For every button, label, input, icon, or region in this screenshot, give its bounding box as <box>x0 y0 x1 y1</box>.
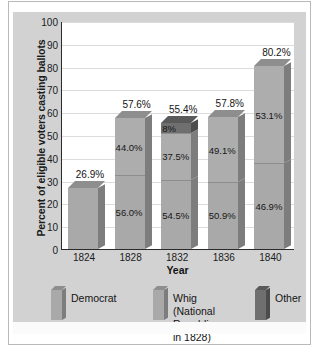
segment-value-label: 37.5% <box>162 151 206 162</box>
y-axis-tick-label: 20 <box>32 199 58 210</box>
bar-slot: 56.0%44.0%57.6%1828 <box>109 22 156 249</box>
y-axis-tick-label: 50 <box>32 131 58 142</box>
chart-panel: Percent of eligible voters casting ballo… <box>13 12 306 334</box>
legend-swatch-other <box>255 290 266 320</box>
y-axis-tick-label: 0 <box>32 245 58 256</box>
legend-label: Whig (National Republican in 1828) <box>173 292 226 344</box>
segment-value-label: 54.5% <box>162 210 206 221</box>
legend-swatch-side <box>62 288 66 320</box>
bar-slot: 46.9%53.1%80.2%1840 <box>248 22 295 249</box>
plot-area: 0102030405060708090100 26.9%182456.0%44.… <box>61 22 294 250</box>
chart-figure: Percent of eligible voters casting ballo… <box>0 0 320 352</box>
x-axis-title: Year <box>61 264 294 276</box>
segment-value-label: 44.0% <box>116 142 160 153</box>
x-axis-tick-label: 1832 <box>156 252 198 263</box>
bar-slot: 54.5%37.5%8%55.4%1832 <box>155 22 202 249</box>
legend-swatch-whig <box>153 290 164 320</box>
segment-divider <box>115 175 145 176</box>
gridline <box>62 250 294 251</box>
y-axis-tick-label: 80 <box>32 62 58 73</box>
x-axis-tick-label: 1828 <box>110 252 152 263</box>
stacked-bar[interactable]: 26.9%1824 <box>68 188 98 249</box>
segment-divider <box>254 163 284 164</box>
segment-value-label: 46.9% <box>255 201 299 212</box>
bar-slot: 50.9%49.1%57.8%1836 <box>202 22 249 249</box>
legend-swatch-democrat <box>51 290 62 320</box>
segment-value-label: 49.1% <box>209 145 253 156</box>
figure-footer-strip <box>13 322 306 334</box>
y-axis-tick-label: 90 <box>32 39 58 50</box>
stacked-bar[interactable]: 54.5%37.5%8%55.4%1832 <box>161 123 191 249</box>
y-axis-tick-label: 60 <box>32 108 58 119</box>
segment-value-label: 50.9% <box>209 210 253 221</box>
segment-divider <box>161 180 191 181</box>
y-axis-tick-label: 40 <box>32 153 58 164</box>
segment-value-label: 56.0% <box>116 207 160 218</box>
y-axis-tick-label: 70 <box>32 85 58 96</box>
legend-label: Other <box>275 292 301 305</box>
segment-value-label: 53.1% <box>255 110 299 121</box>
bar-segment-side <box>98 184 105 249</box>
bar-top-face <box>115 111 152 118</box>
stacked-bar[interactable]: 46.9%53.1%80.2%1840 <box>254 66 284 249</box>
stacked-bar[interactable]: 50.9%49.1%57.8%1836 <box>208 117 238 249</box>
bar-segment[interactable] <box>68 188 98 249</box>
bar-slot: 26.9%1824 <box>62 22 109 249</box>
y-axis-tick-label: 30 <box>32 176 58 187</box>
bar-total-label: 80.2% <box>250 47 302 58</box>
x-axis-tick-label: 1824 <box>63 252 105 263</box>
x-axis-tick-label: 1836 <box>203 252 245 263</box>
stacked-bar[interactable]: 56.0%44.0%57.6%1828 <box>115 118 145 249</box>
segment-divider <box>208 182 238 183</box>
legend-label: Democrat <box>71 292 117 305</box>
legend-swatch-side <box>266 288 270 320</box>
y-axis-tick-label: 100 <box>32 17 58 28</box>
y-axis-tick-label: 10 <box>32 222 58 233</box>
legend-swatch-side <box>164 288 168 320</box>
x-axis-tick-label: 1840 <box>249 252 291 263</box>
segment-value-label: 8% <box>162 123 206 134</box>
bar-group: 26.9%182456.0%44.0%57.6%182854.5%37.5%8%… <box>62 22 294 249</box>
